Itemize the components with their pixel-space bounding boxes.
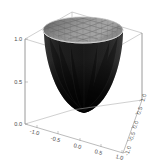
- y-tick-label: 0.5: [135, 106, 143, 115]
- z-tick-label: 1.0: [14, 36, 22, 42]
- z-tick-label: 0.5: [14, 79, 22, 85]
- z-tick-label: 0.0: [14, 121, 22, 127]
- x-tick-label: 0.0: [73, 142, 82, 150]
- y-tick-label: 1.0: [139, 93, 147, 102]
- y-tick-label: -1.0: [123, 145, 132, 156]
- z-axis-tick-labels: 1.0 0.5 0.0: [14, 36, 22, 127]
- x-tick-label: -1.0: [29, 128, 40, 136]
- y-axis-tick-labels: 1.0 0.5 0.0 -0.5 -1.0: [123, 93, 147, 156]
- x-tick-label: 0.5: [94, 148, 103, 156]
- paraboloid-surface: [43, 17, 123, 113]
- y-tick-label: 0.0: [131, 120, 139, 129]
- y-tick-label: -0.5: [127, 131, 136, 142]
- plot-container: 1.0 0.5 0.0 -1.0 -0.5 0.0 0.5 1.0 1.0 0.…: [0, 0, 156, 161]
- paraboloid-3d-plot: 1.0 0.5 0.0 -1.0 -0.5 0.0 0.5 1.0 1.0 0.…: [0, 0, 156, 161]
- x-axis-tick-labels: -1.0 -0.5 0.0 0.5 1.0: [29, 128, 124, 161]
- x-tick-label: -0.5: [50, 135, 61, 143]
